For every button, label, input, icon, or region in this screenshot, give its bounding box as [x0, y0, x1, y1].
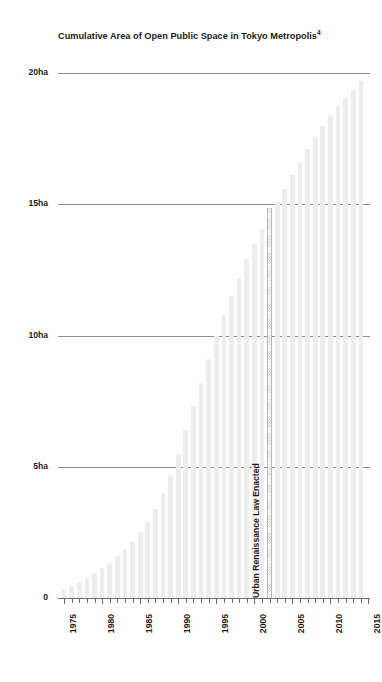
x-axis-tick	[247, 599, 248, 603]
y-axis-tick-label: 10ha	[2, 330, 48, 340]
x-axis-tick	[102, 599, 103, 604]
x-axis-tick	[117, 599, 118, 603]
bar	[107, 563, 112, 598]
x-axis-tick	[79, 599, 80, 603]
x-axis-tick	[133, 599, 134, 603]
bar	[282, 189, 287, 599]
x-axis-tick	[193, 599, 194, 603]
bar	[199, 383, 204, 598]
bar	[320, 126, 325, 599]
x-axis-tick	[338, 599, 339, 603]
gridline	[58, 73, 370, 74]
chart-title-text: Cumulative Area of Open Public Space in …	[58, 31, 317, 41]
bar	[336, 106, 341, 598]
bar	[123, 549, 128, 598]
x-axis-tick-label: 2015	[372, 614, 382, 633]
bar	[100, 568, 105, 598]
x-axis-tick	[239, 599, 240, 603]
x-axis-tick	[171, 599, 172, 603]
x-axis-tick	[209, 599, 210, 603]
x-axis-tick	[95, 599, 96, 603]
x-axis-tick-label: 2000	[258, 614, 268, 633]
x-axis-tick	[140, 599, 141, 604]
x-axis-tick	[285, 599, 286, 603]
annotation-marker-line	[267, 208, 272, 598]
x-axis-tick	[277, 599, 278, 603]
x-axis-tick	[232, 599, 233, 603]
x-axis-tick	[330, 599, 331, 604]
x-axis-tick	[262, 599, 263, 603]
chart-title: Cumulative Area of Open Public Space in …	[58, 29, 321, 41]
bar	[145, 522, 150, 598]
bar	[328, 115, 333, 598]
x-axis-tick	[148, 599, 149, 603]
bar	[85, 578, 90, 598]
x-axis-tick	[178, 599, 179, 604]
bar	[161, 493, 166, 598]
bar	[214, 336, 219, 599]
x-axis-tick	[308, 599, 309, 603]
x-axis-tick	[224, 599, 225, 603]
x-axis-tick	[315, 599, 316, 603]
x-axis-tick	[323, 599, 324, 603]
x-axis-tick	[201, 599, 202, 603]
x-axis-tick-label: 1975	[68, 614, 78, 633]
bar	[351, 90, 356, 598]
x-axis-tick	[216, 599, 217, 604]
bar	[69, 586, 74, 598]
y-axis-tick-label: 5ha	[2, 461, 48, 471]
annotation-label: Urban Renaissance Law Enacted	[251, 463, 261, 598]
bar	[153, 509, 158, 598]
x-axis-tick	[125, 599, 126, 603]
x-axis-tick	[270, 599, 271, 603]
bar	[298, 162, 303, 598]
chart-title-footnote-marker: 4	[317, 29, 321, 36]
chart-container: Cumulative Area of Open Public Space in …	[0, 0, 382, 682]
bar	[206, 359, 211, 598]
bar	[244, 259, 249, 598]
bar	[77, 582, 82, 598]
bar	[359, 81, 364, 598]
bar	[305, 149, 310, 598]
x-axis-tick-label: 1990	[182, 614, 192, 633]
y-axis-tick-label: 0	[2, 592, 48, 602]
x-axis-tick-label: 2005	[296, 614, 306, 633]
x-axis-tick	[292, 599, 293, 604]
x-axis-tick	[87, 599, 88, 603]
bar	[222, 315, 227, 599]
x-axis-tick	[110, 599, 111, 603]
bar	[138, 532, 143, 598]
bar	[290, 175, 295, 598]
x-axis-tick-label: 1980	[106, 614, 116, 633]
x-axis-tick	[361, 599, 362, 603]
x-axis-tick	[368, 599, 369, 604]
bar	[92, 573, 97, 598]
x-axis-tick	[254, 599, 255, 604]
x-axis-tick-label: 1985	[144, 614, 154, 633]
bar	[115, 556, 120, 598]
bar	[191, 406, 196, 598]
bar	[313, 137, 318, 598]
bar	[176, 454, 181, 598]
x-axis-tick	[163, 599, 164, 603]
x-axis-tick	[353, 599, 354, 603]
x-axis-tick	[64, 599, 65, 604]
x-axis-tick	[300, 599, 301, 603]
bar	[275, 202, 280, 598]
y-axis-tick-label: 15ha	[2, 198, 48, 208]
x-axis-tick	[72, 599, 73, 603]
x-axis-tick	[346, 599, 347, 603]
plot-area	[58, 73, 370, 598]
x-axis-tick	[155, 599, 156, 603]
bar	[237, 278, 242, 598]
x-axis-tick-label: 2010	[334, 614, 344, 633]
x-axis-tick	[186, 599, 187, 603]
x-axis-tick-label: 1995	[220, 614, 230, 633]
bar	[183, 430, 188, 598]
bar	[343, 98, 348, 598]
bar	[168, 475, 173, 598]
bar	[62, 590, 67, 598]
bar	[130, 542, 135, 598]
y-axis-tick-label: 20ha	[2, 67, 48, 77]
bar	[229, 296, 234, 598]
